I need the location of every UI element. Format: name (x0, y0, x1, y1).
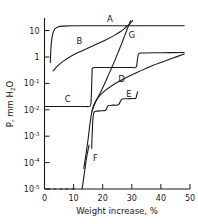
curve-label-f: F (93, 153, 98, 163)
y-tick-label: 10-4 (24, 157, 40, 167)
curve-g (92, 21, 131, 112)
y-tick-marks (45, 31, 50, 189)
y-axis-title: P, mm H2O (5, 80, 16, 127)
curve-label-c: C (65, 94, 71, 104)
x-axis-title: Weight increase, % (76, 206, 158, 216)
x-tick-label: 10 (69, 194, 79, 203)
y-tick-label: 1 (34, 53, 39, 62)
y-axis-title-text: P, mm H2O (5, 80, 16, 127)
curve-f (82, 145, 89, 189)
x-tick-label: 20 (98, 194, 108, 203)
chart-figure: 10110-110-210-310-410-5 01020304050 ABCD… (0, 0, 198, 224)
curve-label-g: G (129, 30, 136, 40)
x-tick-label: 40 (156, 194, 166, 203)
x-tick-label: 0 (42, 194, 47, 203)
x-axis-title-text: Weight increase, % (76, 206, 158, 216)
x-tick-label: 30 (127, 194, 137, 203)
y-tick-label: 10-5 (24, 184, 40, 194)
x-tick-label: 50 (185, 194, 195, 203)
y-tick-label-group: 10110-110-210-310-410-5 (24, 27, 40, 194)
y-tick-label: 10 (29, 27, 39, 36)
y-tick-label: 10-3 (24, 131, 40, 141)
curve-label-d: D (118, 74, 125, 84)
x-tick-label-group: 01020304050 (42, 194, 195, 203)
curve-label-a: A (107, 14, 113, 24)
curve-label-b: B (76, 36, 82, 46)
curve-group (45, 21, 184, 190)
y-tick-label: 10-2 (24, 105, 40, 115)
curve-label-e: E (126, 89, 131, 99)
curve-e (92, 92, 138, 148)
semilog-plot: 10110-110-210-310-410-5 01020304050 ABCD… (0, 0, 198, 224)
x-tick-marks (45, 184, 191, 189)
y-tick-label: 10-1 (24, 78, 40, 88)
